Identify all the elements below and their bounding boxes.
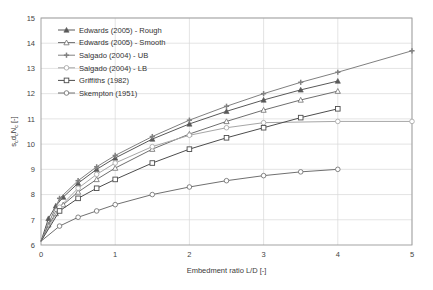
data-marker-open-square (64, 78, 69, 83)
data-marker-open-square (187, 147, 192, 152)
legend-label: Skempton (1951) (79, 89, 138, 98)
x-tick-label: 1 (113, 250, 117, 259)
data-marker-open-circle (224, 178, 229, 183)
y-tick-label: 15 (27, 14, 35, 23)
data-marker-open-square (224, 136, 229, 141)
legend-label: Edwards (2005) - Smooth (79, 38, 166, 47)
data-marker-open-square (76, 196, 81, 201)
chart-container: 6789101112131415 012345 Edwards (2005) -… (0, 0, 433, 290)
data-marker-open-circle (187, 133, 192, 138)
data-marker-open-circle (113, 202, 118, 207)
data-marker-open-square (261, 125, 266, 130)
y-tick-label: 13 (27, 64, 35, 73)
y-tick-label: 7 (31, 216, 35, 225)
y-tick-label: 9 (31, 165, 35, 174)
x-tick-label: 3 (262, 250, 266, 259)
x-tick-label: 2 (187, 250, 191, 259)
data-marker-open-circle (410, 119, 415, 124)
data-marker-open-circle (224, 125, 229, 130)
line-chart: 6789101112131415 012345 Edwards (2005) -… (0, 0, 433, 290)
data-marker-open-circle (150, 144, 155, 149)
x-tick-label: 0 (39, 250, 43, 259)
x-tick-label: 4 (336, 250, 340, 259)
data-marker-open-square (150, 161, 155, 166)
x-axis-title: Embedment ratio L/D [-] (187, 266, 267, 275)
legend-label: Edwards (2005) - Rough (79, 26, 162, 35)
data-marker-open-square (113, 177, 118, 182)
data-marker-open-circle (298, 170, 303, 175)
y-tick-label: 10 (27, 140, 35, 149)
y-tick-label: 12 (27, 89, 35, 98)
legend-label: Salgado (2004) - LB (79, 64, 147, 73)
data-marker-open-circle (187, 185, 192, 190)
data-marker-open-circle (57, 224, 62, 229)
data-marker-open-square (57, 209, 62, 214)
data-marker-open-circle (76, 186, 81, 191)
y-tick-label: 6 (31, 241, 35, 250)
data-marker-open-circle (336, 119, 341, 124)
y-tick-label: 14 (27, 39, 35, 48)
y-tick-label: 11 (27, 115, 35, 124)
data-marker-open-square (298, 115, 303, 120)
data-marker-open-circle (76, 215, 81, 220)
data-marker-open-circle (64, 91, 69, 96)
data-marker-open-circle (113, 161, 118, 166)
legend-label: Salgado (2004) - UB (79, 51, 148, 60)
data-marker-open-square (336, 107, 341, 112)
data-marker-open-circle (94, 172, 99, 177)
data-marker-open-circle (94, 209, 99, 214)
data-marker-open-circle (261, 173, 266, 178)
data-marker-open-circle (150, 192, 155, 197)
data-marker-open-circle (261, 120, 266, 125)
y-tick-label: 8 (31, 190, 35, 199)
legend-label: Griffiths (1982) (79, 76, 130, 85)
data-marker-open-circle (64, 66, 69, 71)
data-marker-open-square (94, 186, 99, 191)
data-marker-open-circle (336, 167, 341, 172)
x-tick-label: 5 (410, 250, 414, 259)
